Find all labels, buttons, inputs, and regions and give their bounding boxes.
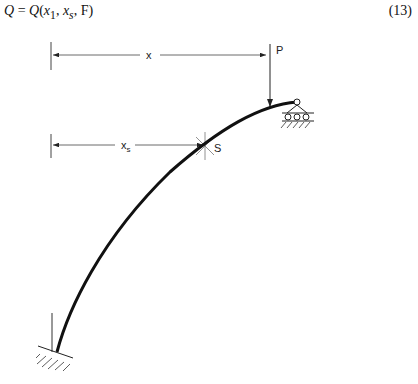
dimension-xs-label: xs: [121, 139, 131, 154]
dimension-xs: xs: [51, 134, 203, 158]
load-p: P: [270, 44, 283, 107]
arch-diagram: x P xs S: [0, 0, 418, 384]
arch-curve: [57, 102, 297, 352]
dimension-x: x: [51, 42, 266, 70]
dimension-x-label: x: [146, 49, 152, 61]
section-s-label: S: [214, 142, 221, 154]
load-p-label: P: [276, 44, 283, 56]
